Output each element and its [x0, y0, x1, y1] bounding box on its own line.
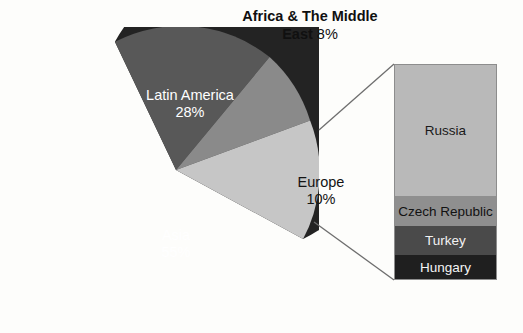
pie-label-africa-middle-east: Africa & The Middle East 8%	[240, 8, 380, 43]
pie-label-africa-middle-east-value: 8%	[317, 26, 338, 42]
bar-segment-russia[interactable]: Russia	[395, 65, 496, 196]
pie-chart: Latin America 28% Asia 55% Europe 10%	[33, 27, 319, 313]
bar-segment-hungary[interactable]: Hungary	[395, 255, 496, 279]
pie-label-africa-middle-east-line1: Africa & The	[242, 8, 327, 24]
bar-segment-turkey[interactable]: Turkey	[395, 226, 496, 255]
callout-line-top	[319, 64, 394, 130]
bar-segment-czech-republic[interactable]: Czech Republic	[395, 196, 496, 226]
pie-svg	[33, 27, 319, 313]
bar-segment-turkey-label: Turkey	[425, 233, 466, 248]
callout-line-bottom	[314, 222, 394, 280]
pie-chart-figure: Latin America 28% Asia 55% Europe 10% Af…	[0, 0, 523, 333]
europe-breakout-stacked-bar: Russia Czech Republic Turkey Hungary	[394, 64, 497, 280]
bar-segment-czech-republic-label: Czech Republic	[398, 204, 493, 219]
bar-segment-russia-label: Russia	[425, 123, 466, 138]
bar-segment-hungary-label: Hungary	[420, 260, 471, 275]
